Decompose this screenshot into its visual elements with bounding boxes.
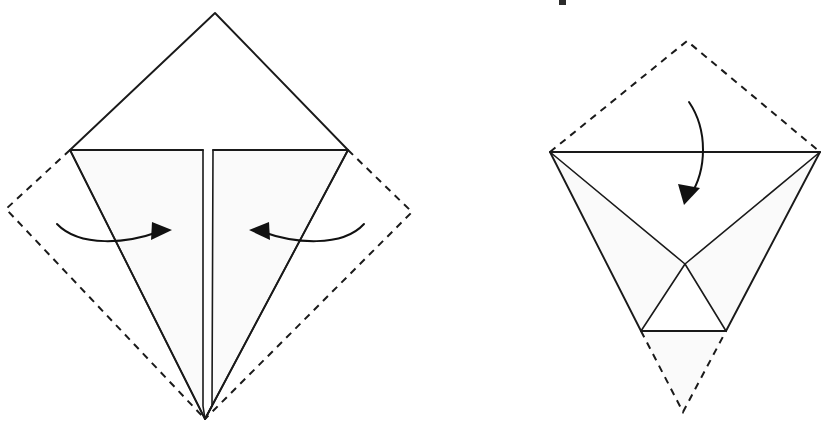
left-panel xyxy=(6,13,412,419)
fold-down-arrow-head xyxy=(678,184,700,205)
stray-ink-mark xyxy=(559,0,566,5)
fold-down-arrow-shaft xyxy=(689,102,703,196)
fold-down-arrow xyxy=(678,102,703,205)
left-hidden-outline xyxy=(6,150,412,419)
origami-diagram-root xyxy=(0,0,839,442)
right-hidden-lower-face xyxy=(641,331,726,412)
left-upper-triangle-face xyxy=(70,13,348,150)
left-center-split-left-edge xyxy=(203,150,205,419)
origami-diagram-svg xyxy=(0,0,839,442)
right-hidden-upper-triangle xyxy=(550,41,820,152)
right-panel xyxy=(550,0,820,412)
left-center-split-right-edge xyxy=(205,150,213,419)
